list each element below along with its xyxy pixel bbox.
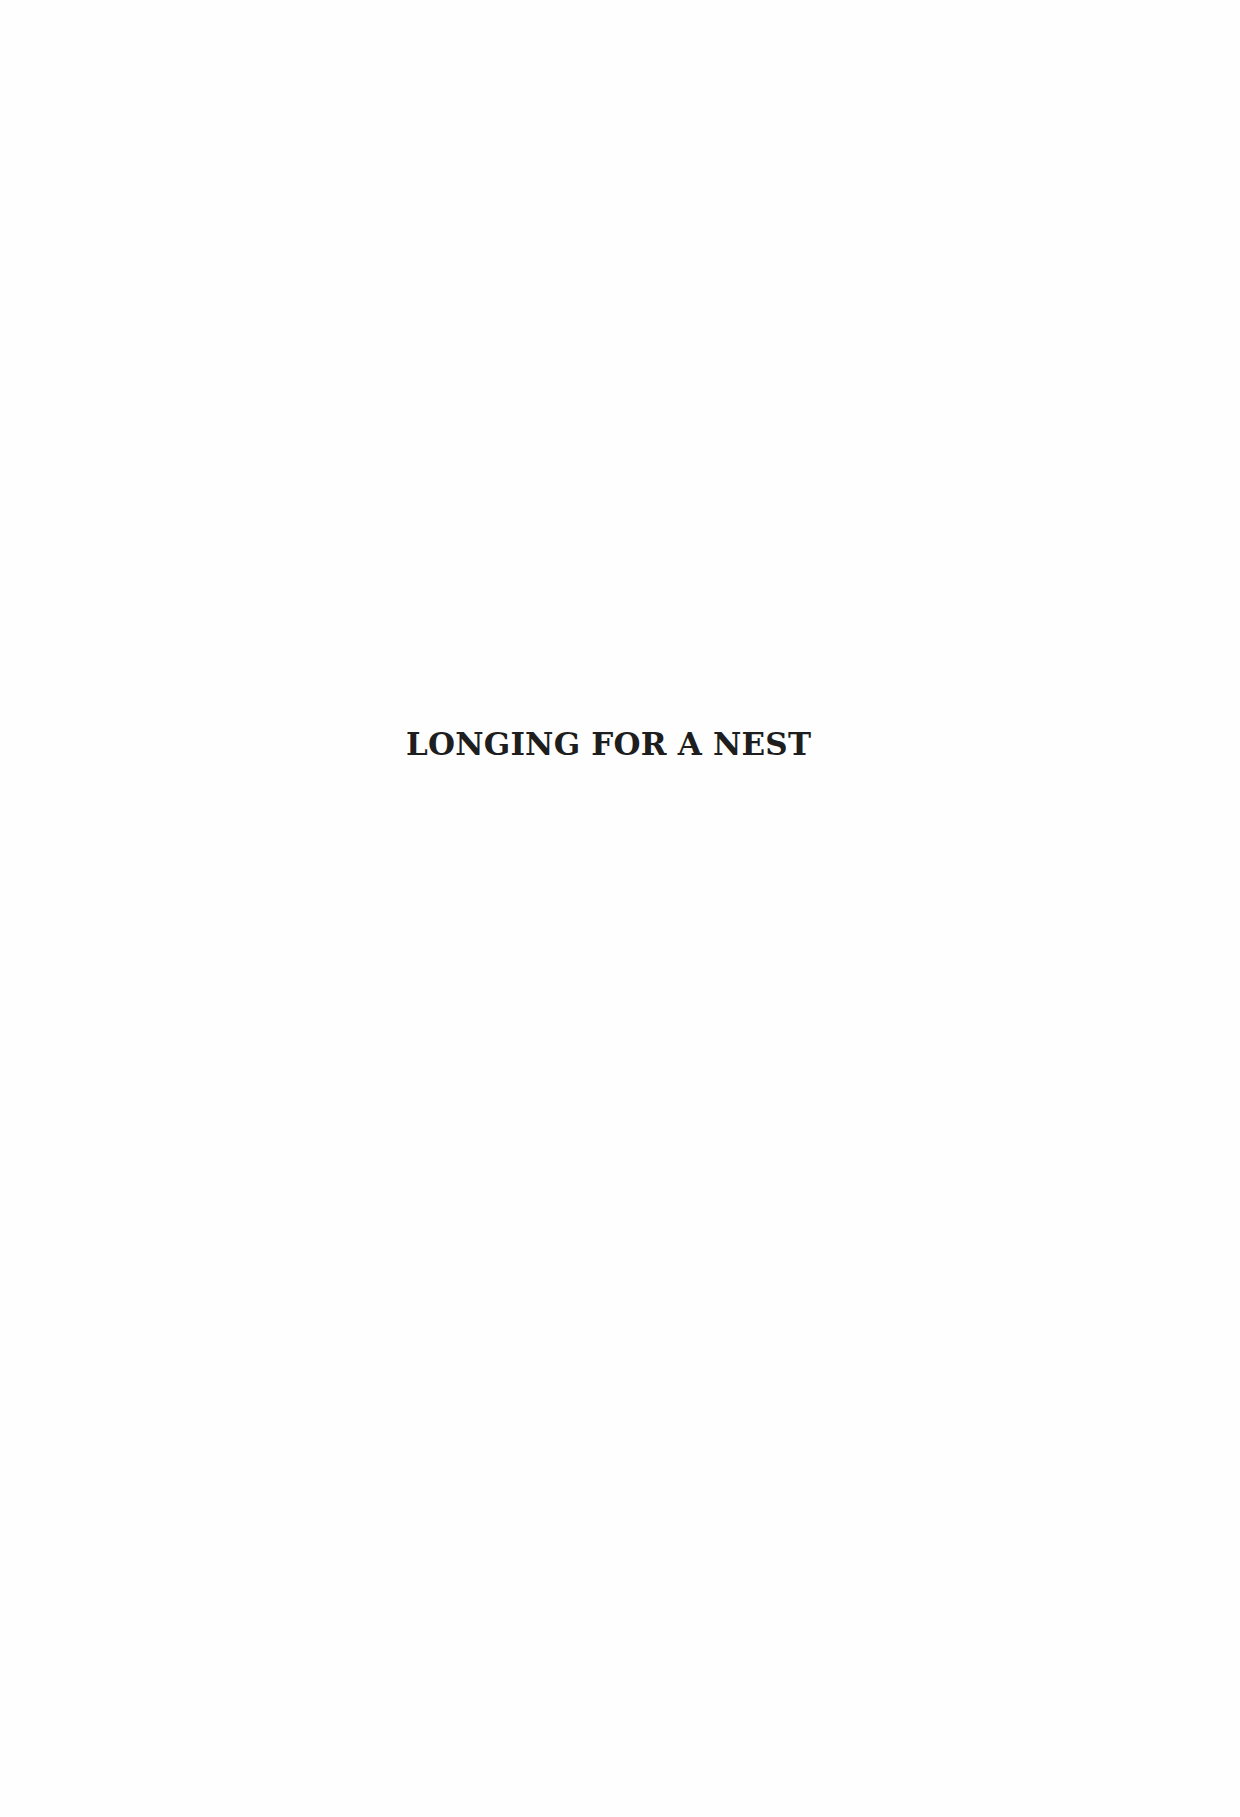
page-title: LONGING FOR A NEST	[406, 722, 888, 766]
book-page: LONGING FOR A NEST	[0, 0, 1240, 1817]
